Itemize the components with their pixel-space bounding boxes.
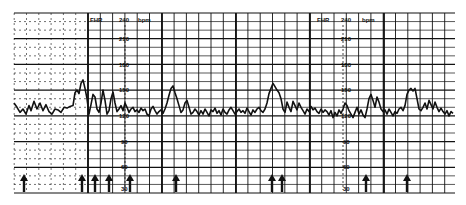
y-tick-90: 90 bbox=[343, 139, 350, 145]
y-tick-210: 210 bbox=[119, 36, 130, 42]
fhr-label: FHR bbox=[90, 17, 103, 23]
y-axis-labels-left: FHR 240 bpm 210 180 150 120 90 60 30 bbox=[90, 17, 151, 192]
movement-arrow-icon bbox=[403, 174, 411, 192]
y-tick-240: 240 bbox=[341, 17, 352, 23]
y-tick-210: 210 bbox=[341, 36, 352, 42]
chart-grid bbox=[14, 13, 455, 193]
unit-label: bpm bbox=[362, 17, 375, 23]
movement-arrow-icon bbox=[78, 174, 86, 192]
y-tick-30: 30 bbox=[343, 186, 350, 192]
y-tick-150: 150 bbox=[341, 87, 352, 93]
y-tick-180: 180 bbox=[119, 62, 130, 68]
y-tick-60: 60 bbox=[343, 164, 350, 170]
fhr-label: FHR bbox=[317, 17, 330, 23]
y-tick-120: 120 bbox=[119, 113, 130, 119]
y-tick-90: 90 bbox=[121, 139, 128, 145]
fetal-movement-markers bbox=[20, 174, 411, 192]
y-tick-150: 150 bbox=[119, 87, 130, 93]
y-tick-180: 180 bbox=[341, 62, 352, 68]
ctg-chart: FHR 240 bpm 210 180 150 120 90 60 30 FHR… bbox=[0, 0, 466, 205]
movement-arrow-icon bbox=[362, 174, 370, 192]
movement-arrow-icon bbox=[268, 174, 276, 192]
unit-label: bpm bbox=[138, 17, 151, 23]
y-tick-30: 30 bbox=[121, 186, 128, 192]
y-tick-60: 60 bbox=[121, 164, 128, 170]
movement-arrow-icon bbox=[172, 174, 180, 192]
movement-arrow-icon bbox=[91, 174, 99, 192]
y-tick-240: 240 bbox=[119, 17, 130, 23]
movement-arrow-icon bbox=[105, 174, 113, 192]
